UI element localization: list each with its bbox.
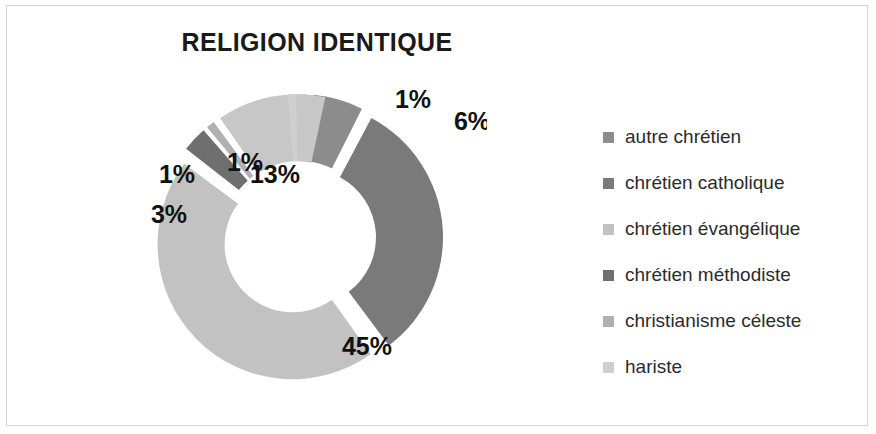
legend-item[interactable]: hariste bbox=[603, 344, 873, 390]
chart-legend: autre chrétienchrétien catholiquechrétie… bbox=[603, 114, 873, 390]
doughnut-slice[interactable] bbox=[158, 164, 371, 379]
legend-item-label: autre chrétien bbox=[625, 126, 741, 148]
legend-item-label: chrétien catholique bbox=[625, 172, 785, 194]
doughnut-slices-group bbox=[158, 94, 443, 379]
legend-swatch-icon bbox=[603, 178, 614, 189]
legend-item-label: hariste bbox=[625, 356, 682, 378]
legend-item[interactable]: chrétien méthodiste bbox=[603, 252, 873, 298]
doughnut-chart-svg: 1%6%32%45%3%1%13%1% bbox=[127, 76, 487, 416]
legend-item[interactable]: chrétien catholique bbox=[603, 160, 873, 206]
legend-item-label: chrétien méthodiste bbox=[625, 264, 791, 286]
legend-item-label: chrétien évangélique bbox=[625, 218, 800, 240]
slice-data-label: 1% bbox=[159, 160, 195, 188]
slice-data-label: 6% bbox=[454, 107, 487, 135]
legend-swatch-icon bbox=[603, 132, 614, 143]
legend-item-label: christianisme céleste bbox=[625, 310, 801, 332]
legend-swatch-icon bbox=[603, 362, 614, 373]
slice-data-label: 3% bbox=[151, 200, 187, 228]
chart-frame: RELIGION IDENTIQUE 1%6%32%45%3%1%13%1% a… bbox=[6, 5, 868, 426]
legend-item[interactable]: christianisme céleste bbox=[603, 298, 873, 344]
slice-data-label: 45% bbox=[342, 332, 392, 360]
chart-title: RELIGION IDENTIQUE bbox=[7, 28, 627, 57]
legend-swatch-icon bbox=[603, 316, 614, 327]
slice-data-label: 1% bbox=[227, 148, 263, 176]
legend-item[interactable]: chrétien évangélique bbox=[603, 206, 873, 252]
legend-item[interactable]: autre chrétien bbox=[603, 114, 873, 160]
doughnut-slice[interactable] bbox=[340, 118, 443, 345]
slice-data-label: 1% bbox=[395, 85, 431, 113]
legend-swatch-icon bbox=[603, 270, 614, 281]
doughnut-chart-plot-area: 1%6%32%45%3%1%13%1% bbox=[127, 76, 487, 416]
legend-swatch-icon bbox=[603, 224, 614, 235]
